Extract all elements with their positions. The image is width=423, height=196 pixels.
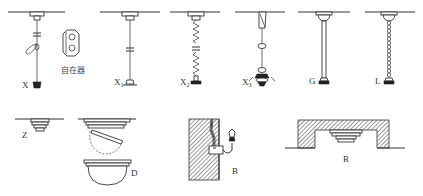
label-r: R — [343, 154, 349, 164]
label-d: D — [131, 168, 138, 178]
fixture-b: B — [189, 119, 238, 180]
fixture-z: Z — [15, 119, 64, 140]
fixture-l: L — [365, 12, 415, 86]
lamp-holder-icon — [191, 81, 201, 84]
label-g: G — [309, 76, 316, 86]
label-x1: X1 — [114, 77, 124, 88]
lamp-holder-icon — [384, 81, 394, 84]
label-x3: X3 — [242, 77, 252, 88]
bracket-arm-icon — [223, 143, 232, 153]
fixture-r: R — [285, 120, 405, 164]
lamp-mounting-diagram: X 自在器 X1 X2 — [0, 0, 423, 196]
label-x: X — [22, 80, 29, 90]
shade-icon — [255, 74, 269, 78]
junction-box — [209, 146, 223, 154]
candle-bulb-icon — [229, 129, 235, 137]
fixture-x3: X3 — [235, 12, 285, 88]
rod-icon — [322, 21, 326, 78]
chain-icon — [387, 21, 390, 77]
spring-icon — [193, 20, 199, 43]
lamp-bulb-icon — [33, 82, 41, 88]
fixture-d: D — [78, 119, 138, 185]
dome-icon — [88, 166, 127, 185]
fixture-adjuster: 自在器 — [61, 30, 85, 75]
label-z: Z — [22, 130, 28, 140]
ceiling-rose — [30, 12, 44, 16]
hinged-cover-icon — [91, 130, 123, 144]
label-x2: X2 — [180, 77, 190, 88]
label-l: L — [375, 76, 381, 86]
lamp-holder-icon — [319, 81, 329, 84]
label-b: B — [232, 166, 238, 176]
fixture-x: X — [8, 12, 65, 90]
label-adjuster: 自在器 — [61, 65, 85, 75]
lamp-holder-icon — [126, 80, 134, 84]
fixture-x1: X1 — [100, 12, 160, 88]
fixture-x2: X2 — [170, 12, 220, 88]
ring-icon — [258, 44, 266, 49]
fixture-g: G — [298, 12, 350, 86]
